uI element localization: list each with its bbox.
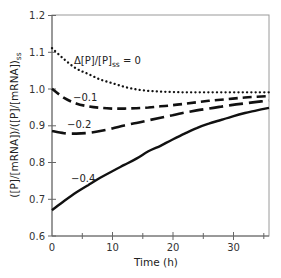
x-axis-title: Time (h) [133, 256, 178, 268]
y-tick-label: 1.1 [29, 47, 45, 58]
y-axis-title-main: ([P]/[mRNA])/([P]/[mRNA]) [8, 60, 20, 198]
x-tick-label: 20 [167, 242, 180, 253]
x-tick-label: 0 [49, 242, 55, 253]
x-tick-labels: 0 10 20 30 [49, 242, 240, 253]
annotation-tail: = 0 [120, 55, 141, 66]
y-tick-label: 0.6 [29, 231, 45, 242]
y-tick-label: 0.8 [29, 157, 45, 168]
annotation-series-minus-0.1: −0.1 [73, 92, 97, 103]
y-tick-label: 1.2 [29, 10, 45, 21]
annotation-sub: ss [112, 60, 120, 69]
annotation-series-minus-0.4: −0.4 [71, 173, 95, 184]
annotation-series-0: Δ[P]/[P]ss = 0 [74, 55, 141, 69]
annotation-main: Δ[P]/[P] [74, 55, 112, 66]
line-chart: 0.6 0.7 0.8 0.9 1.0 1.1 1.2 0 10 20 30 T… [0, 0, 281, 278]
x-tick-label: 30 [227, 242, 240, 253]
y-axis-title-sub: ss [14, 52, 23, 60]
y-tick-labels: 0.6 0.7 0.8 0.9 1.0 1.1 1.2 [29, 10, 45, 242]
annotation-series-minus-0.2: −0.2 [67, 119, 91, 130]
y-axis-title: ([P]/[mRNA])/([P]/[mRNA])ss [8, 52, 23, 197]
x-tick-label: 10 [106, 242, 119, 253]
y-tick-label: 0.7 [29, 194, 45, 205]
y-tick-label: 0.9 [29, 120, 45, 131]
y-tick-label: 1.0 [29, 84, 45, 95]
